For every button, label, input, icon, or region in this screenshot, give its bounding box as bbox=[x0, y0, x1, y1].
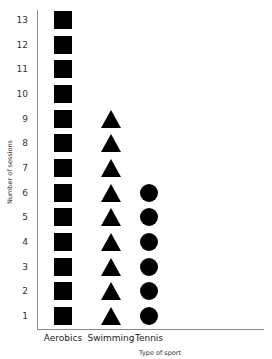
triangle-icon bbox=[101, 233, 121, 251]
y-tick-label: 10 bbox=[4, 89, 28, 99]
y-tick-label: 11 bbox=[4, 64, 28, 74]
triangle-icon bbox=[101, 159, 121, 177]
square-icon bbox=[54, 258, 72, 276]
triangle-icon bbox=[101, 134, 121, 152]
y-tick-label: 9 bbox=[4, 114, 28, 124]
triangle-icon bbox=[101, 110, 121, 128]
triangle-icon bbox=[101, 208, 121, 226]
y-tick-label: 3 bbox=[4, 262, 28, 272]
circle-icon bbox=[140, 307, 158, 325]
y-tick-label: 13 bbox=[4, 15, 28, 25]
circle-icon bbox=[140, 233, 158, 251]
circle-icon bbox=[140, 282, 158, 300]
y-axis-line bbox=[37, 10, 38, 330]
y-axis-label: Number of sessions bbox=[6, 132, 14, 212]
square-icon bbox=[54, 85, 72, 103]
y-tick-label: 1 bbox=[4, 311, 28, 321]
square-icon bbox=[54, 36, 72, 54]
square-icon bbox=[54, 282, 72, 300]
chart-title bbox=[60, 0, 220, 3]
y-tick-label: 2 bbox=[4, 286, 28, 296]
square-icon bbox=[54, 307, 72, 325]
x-axis-line bbox=[37, 329, 264, 330]
x-tick-label: Tennis bbox=[119, 333, 179, 343]
square-icon bbox=[54, 60, 72, 78]
circle-icon bbox=[140, 184, 158, 202]
y-tick-label: 5 bbox=[4, 212, 28, 222]
y-tick-label: 12 bbox=[4, 40, 28, 50]
triangle-icon bbox=[101, 184, 121, 202]
triangle-icon bbox=[101, 282, 121, 300]
square-icon bbox=[54, 134, 72, 152]
triangle-icon bbox=[101, 258, 121, 276]
square-icon bbox=[54, 184, 72, 202]
x-axis-label: Type of sport bbox=[120, 349, 200, 357]
circle-icon bbox=[140, 208, 158, 226]
square-icon bbox=[54, 11, 72, 29]
square-icon bbox=[54, 110, 72, 128]
y-tick-label: 4 bbox=[4, 237, 28, 247]
circle-icon bbox=[140, 258, 158, 276]
pictograph-chart: 12345678910111213 Number of sessions Aer… bbox=[0, 0, 272, 359]
triangle-icon bbox=[101, 307, 121, 325]
square-icon bbox=[54, 233, 72, 251]
square-icon bbox=[54, 208, 72, 226]
square-icon bbox=[54, 159, 72, 177]
